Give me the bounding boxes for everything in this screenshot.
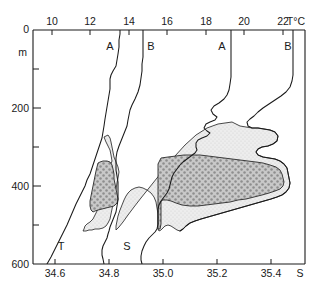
bottom-tick-label-34-8: 34.8 — [99, 267, 120, 279]
chart-background — [0, 0, 327, 295]
top-tick-label-20: 20 — [238, 15, 250, 27]
depth-axis-label: m — [18, 46, 27, 58]
depth-tick-label-600: 600 — [11, 258, 29, 270]
top-tick-label-14: 14 — [123, 15, 135, 27]
temperature-axis-label: T°C — [287, 15, 306, 27]
profile-chart: 10 12 14 16 18 20 22 T°C 34.6 34.8 35.0 … — [0, 0, 327, 295]
bottom-tick-label-35-2: 35.2 — [207, 267, 228, 279]
group-label-s: S — [123, 240, 130, 252]
bottom-tick-label-35-4: 35.4 — [261, 267, 282, 279]
curve-label-s-b: B — [284, 40, 291, 52]
curve-label-t-b: B — [147, 40, 154, 52]
depth-tick-label-0: 0 — [23, 23, 29, 35]
bottom-tick-label-35-0: 35.0 — [153, 267, 174, 279]
top-tick-label-16: 16 — [161, 15, 173, 27]
salinity-axis-label: S — [296, 267, 303, 279]
top-tick-label-12: 12 — [84, 15, 96, 27]
depth-tick-label-400: 400 — [11, 180, 29, 192]
figure-container: 10 12 14 16 18 20 22 T°C 34.6 34.8 35.0 … — [0, 0, 327, 295]
top-tick-label-18: 18 — [200, 15, 212, 27]
top-tick-label-10: 10 — [46, 15, 58, 27]
group-label-t: T — [58, 240, 65, 252]
curve-label-s-a: A — [218, 40, 226, 52]
depth-tick-label-200: 200 — [11, 102, 29, 114]
bottom-tick-label-34-6: 34.6 — [45, 267, 66, 279]
curve-label-t-a: A — [106, 40, 114, 52]
